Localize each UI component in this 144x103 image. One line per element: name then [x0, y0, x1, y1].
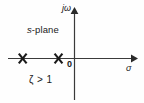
damping-condition-label: ζ > 1	[29, 75, 52, 85]
origin-label: 0	[67, 60, 72, 69]
real-axis-label: σ	[126, 64, 131, 73]
imaginary-axis-label: jω	[62, 4, 71, 13]
real-axis-arrowhead	[131, 55, 138, 63]
s-plane-label-rest: -plane	[32, 24, 59, 35]
s-plane-figure: s-plane jω σ 0 ζ > 1	[0, 0, 144, 103]
imaginary-axis-arrowhead	[71, 7, 79, 14]
pole-zero-plot	[0, 0, 144, 103]
s-plane-label: s-plane	[27, 25, 59, 35]
